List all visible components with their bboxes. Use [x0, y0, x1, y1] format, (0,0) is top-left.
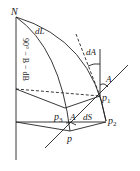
dashed-line-tangent [76, 34, 100, 96]
dashed-line-horizontal [16, 89, 100, 96]
label-p2: p2 [107, 115, 117, 128]
label-A-p: A [69, 112, 76, 122]
label-dS: dS [83, 112, 93, 122]
label-A-p1: A [105, 74, 112, 84]
label-dL: dL [35, 26, 45, 36]
label-N: N [10, 6, 19, 17]
line-p-to-p2 [70, 122, 106, 131]
dA-angle-arc [88, 64, 100, 66]
label-dA: dA [86, 47, 97, 57]
geodesic-line [45, 65, 128, 148]
label-colatitude: 90° − B − dB [21, 38, 30, 81]
line-p3-to-p1 [65, 96, 100, 108]
geodesic-differential-diagram: N dL 90° − B − dB dA A p1 p2 p3 A dS p [0, 0, 140, 171]
label-p1: p1 [101, 92, 111, 105]
line-axis-to-p3 [16, 89, 65, 108]
label-p: p [66, 133, 72, 144]
A-angle-arc-p [66, 122, 76, 125]
